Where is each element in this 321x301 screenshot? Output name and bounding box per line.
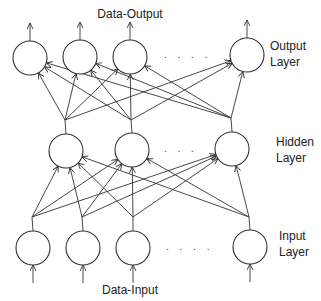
hidden-stem [231,118,232,132]
hidden-stem [65,120,66,134]
input-hidden-edge [70,168,82,217]
nodes [13,38,267,265]
input-hidden-edge [82,164,122,217]
input-hidden-edge [78,163,133,217]
output-layer-label-1: Output [270,39,307,53]
data-input-label: Data-Input [102,283,159,297]
input-ellipsis: . . . . [166,241,213,252]
hidden-output-edge [145,66,231,118]
input-hidden-edge [147,158,249,217]
input-node-1 [16,231,50,265]
data-output-label: Data-Output [97,7,163,21]
hidden-output-edge [231,71,243,118]
input-stem [32,217,33,231]
output-node-2 [63,40,97,74]
input-stem [249,217,250,230]
input-layer-label-2: Layer [279,245,309,259]
input-hidden-edge [82,157,249,217]
neural-network-diagram: Data-Output Data-Input Output Layer Hidd… [0,0,321,301]
hidden-layer-label-1: Hidden [276,135,314,149]
input-node-3 [116,231,150,265]
hidden-ellipsis: . . . [164,143,198,154]
input-stem [82,217,83,231]
hidden-output-edge [96,63,231,118]
input-hidden-edge [236,165,249,217]
hidden-node-2 [115,133,149,167]
output-node-1 [13,41,47,75]
output-layer-label-2: Layer [270,55,300,69]
output-ellipsis: . . . . [164,49,211,60]
hidden-stem [131,120,132,133]
hidden-node-1 [49,134,83,168]
hidden-output-edge [130,74,131,120]
hidden-layer-label-2: Layer [276,151,306,165]
output-node-4 [230,38,264,72]
output-node-3 [113,40,147,74]
hidden-node-3 [215,132,249,166]
input-layer-label-1: Input [279,229,306,243]
hidden-output-edge [131,63,232,120]
input-node-4 [233,230,267,264]
input-node-2 [66,231,100,265]
hidden-output-edge [38,73,65,120]
